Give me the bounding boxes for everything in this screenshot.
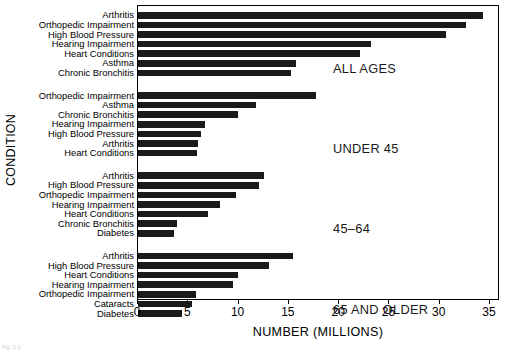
bar — [138, 253, 293, 260]
category-label: Diabetes — [97, 309, 134, 318]
figure-caption: Fig. 2-1 — [2, 344, 21, 350]
category-label: Arthritis — [102, 251, 134, 260]
x-axis-tick — [288, 300, 289, 304]
category-label: High Blood Pressure — [48, 129, 134, 138]
bar — [138, 150, 197, 157]
bar — [138, 121, 205, 128]
bar — [138, 172, 264, 179]
group-annotation: 45–64 — [333, 221, 370, 236]
bar — [138, 182, 259, 189]
x-axis-tick — [439, 300, 440, 304]
category-label: Diabetes — [97, 228, 134, 237]
bar — [138, 70, 291, 77]
bar — [138, 140, 198, 147]
bar — [138, 262, 269, 269]
x-axis-tick — [137, 300, 138, 304]
category-label: Orthopedic Impairment — [39, 20, 134, 29]
bar — [138, 272, 238, 279]
bar — [138, 22, 466, 29]
x-axis-tick — [388, 300, 389, 304]
bar — [138, 31, 446, 38]
x-axis-tick-label: 30 — [432, 305, 445, 319]
bar — [138, 281, 233, 288]
bar — [138, 102, 256, 109]
bar — [138, 211, 208, 218]
bar — [138, 230, 174, 237]
x-axis-tick — [489, 300, 490, 304]
y-axis-title: CONDITION — [0, 0, 22, 300]
bar — [138, 50, 360, 57]
y-axis-title-text: CONDITION — [4, 114, 18, 186]
x-axis-tick-label: 0 — [134, 305, 141, 319]
x-axis-tick — [187, 300, 188, 304]
x-axis-tick — [238, 300, 239, 304]
bar-chart: CONDITION ArthritisOrthopedic Impairment… — [0, 0, 509, 360]
bar — [138, 201, 220, 208]
category-label-column: ArthritisOrthopedic ImpairmentHigh Blood… — [22, 0, 137, 300]
x-axis-title: NUMBER (MILLIONS) — [137, 325, 499, 339]
bar — [138, 92, 316, 99]
x-axis-tick — [338, 300, 339, 304]
category-label: Cataracts — [94, 299, 134, 308]
bar — [138, 111, 238, 118]
x-axis-tick-label: 20 — [331, 305, 344, 319]
bar — [138, 41, 371, 48]
bar — [138, 60, 296, 67]
bar — [138, 220, 177, 227]
x-axis-tick-label: 15 — [281, 305, 294, 319]
x-axis-tick-label: 35 — [482, 305, 495, 319]
bar — [138, 131, 201, 138]
category-label: Heart Conditions — [64, 148, 134, 157]
x-axis-tick-label: 10 — [231, 305, 244, 319]
x-axis-tick-label: 5 — [184, 305, 191, 319]
group-annotation: ALL AGES — [333, 61, 396, 76]
group-annotation: UNDER 45 — [333, 141, 399, 156]
bar — [138, 12, 483, 19]
bar — [138, 291, 196, 298]
x-axis-tick-label: 25 — [382, 305, 395, 319]
plot-area: ALL AGESUNDER 4545–6465 AND OLDER — [137, 5, 499, 300]
bar — [138, 192, 236, 199]
category-label: Orthopedic Impairment — [39, 190, 134, 199]
category-label: Chronic Bronchitis — [58, 68, 134, 77]
